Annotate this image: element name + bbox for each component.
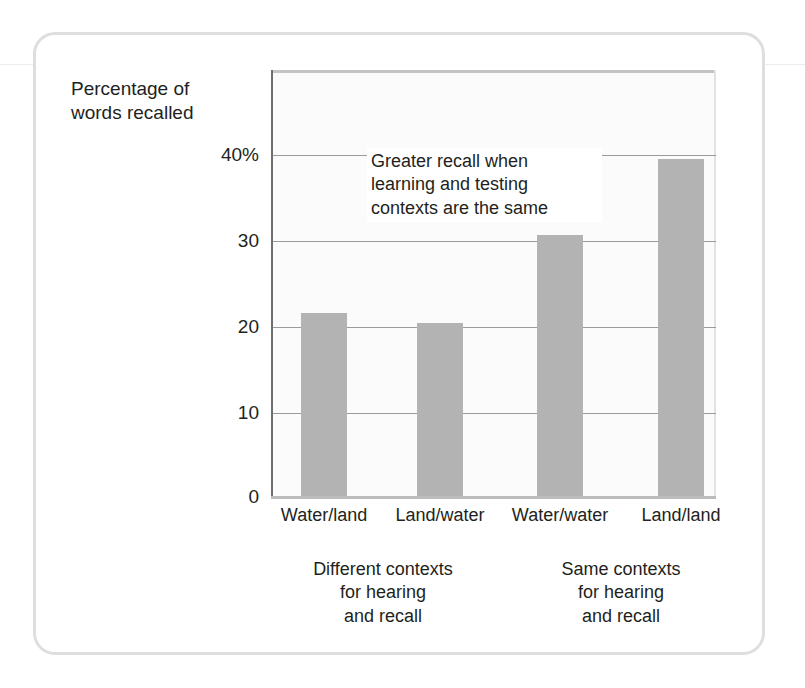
annotation-line-3: contexts are the same [371,197,598,220]
plot-frame-right [714,70,716,497]
group-caption-1-line-3: and recall [313,605,453,628]
group-caption-different-contexts: Different contexts for hearing and recal… [313,558,453,628]
chart-annotation: Greater recall when learning and testing… [367,148,602,222]
y-tick-label-0: 0 [248,486,259,508]
annotation-line-1: Greater recall when [371,150,598,173]
group-caption-2-line-2: for hearing [561,581,680,604]
group-caption-2-line-1: Same contexts [561,558,680,581]
x-axis-line [271,496,716,499]
bar-water-land [301,313,347,497]
x-label-land-water: Land/water [395,505,484,526]
y-tick-label-30: 30 [238,230,259,252]
group-caption-1-line-2: for hearing [313,581,453,604]
gridline-30: 30 [271,241,716,242]
y-axis-line [271,70,273,497]
y-tick-label-20: 20 [238,316,259,338]
x-label-water-water: Water/water [512,505,608,526]
group-caption-same-contexts: Same contexts for hearing and recall [561,558,680,628]
group-captions: Different contexts for hearing and recal… [271,558,731,638]
bar-water-water [537,235,583,497]
plot-frame-top [271,70,716,73]
group-caption-2-line-3: and recall [561,605,680,628]
bar-land-water [417,323,463,497]
x-label-land-land: Land/land [641,505,720,526]
annotation-line-2: learning and testing [371,173,598,196]
x-label-water-land: Water/land [281,505,367,526]
y-axis-title-line-1: Percentage of [71,77,261,101]
group-caption-1-line-1: Different contexts [313,558,453,581]
y-axis-title-line-2: words recalled [71,101,261,125]
y-axis-title: Percentage of words recalled [71,77,261,126]
y-tick-label-40: 40% [221,144,259,166]
plot-area: 40% 30 20 10 0 [271,70,716,497]
y-tick-label-10: 10 [238,402,259,424]
bar-land-land [658,159,704,497]
x-axis-labels: Water/land Land/water Water/water Land/l… [271,505,716,531]
figure-card: Percentage of words recalled 40% 30 20 1… [33,32,765,655]
